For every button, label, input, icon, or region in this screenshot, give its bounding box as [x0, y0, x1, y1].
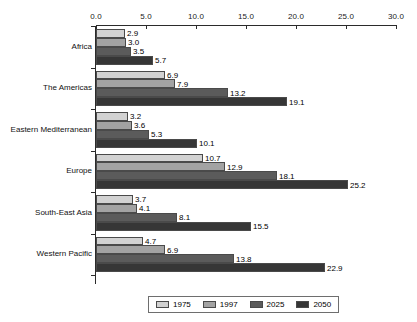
- bar-1975: [96, 154, 203, 163]
- legend-swatch-icon: [203, 301, 216, 308]
- chart-legend: 1975199720252050: [148, 296, 339, 313]
- bar-row: 3.0: [96, 38, 417, 47]
- bar-group: Eastern Mediterranean3.23.65.310.1: [0, 109, 417, 151]
- bar-row: 12.9: [96, 162, 417, 171]
- bar-1997: [96, 204, 137, 213]
- legend-swatch-icon: [250, 301, 263, 308]
- bar-value-label: 15.5: [251, 222, 269, 231]
- bar-2025: [96, 213, 177, 222]
- bar-2050: [96, 56, 153, 65]
- bar-value-label: 19.1: [287, 97, 305, 106]
- legend-item-1997: 1997: [203, 300, 238, 309]
- x-axis-tick-label: 5.0: [140, 12, 151, 21]
- bar-row: 3.7: [96, 195, 417, 204]
- x-axis-tick-label: 10.0: [188, 12, 204, 21]
- bar-stack: 6.97.913.219.1: [96, 71, 417, 107]
- legend-swatch-icon: [296, 301, 309, 308]
- category-label: Western Pacific: [37, 249, 92, 259]
- bar-value-label: 13.8: [234, 254, 252, 263]
- bar-value-label: 3.5: [131, 47, 144, 56]
- x-axis-tick-label: 20.0: [288, 12, 304, 21]
- bar-row: 18.1: [96, 171, 417, 180]
- bar-group: South-East Asia3.74.18.115.5: [0, 192, 417, 234]
- bar-stack: 4.76.913.822.9: [96, 237, 417, 273]
- bar-2025: [96, 130, 149, 139]
- bar-row: 7.9: [96, 79, 417, 88]
- bar-2025: [96, 171, 277, 180]
- bar-group: Western Pacific4.76.913.822.9: [0, 234, 417, 276]
- category-label: Africa: [72, 42, 92, 52]
- category-label: Europe: [66, 166, 92, 176]
- bar-value-label: 22.9: [325, 263, 343, 272]
- bar-value-label: 5.7: [153, 56, 166, 65]
- bar-group: Europe10.712.918.125.2: [0, 151, 417, 193]
- bar-chart: 0.05.010.015.020.025.030.0 Africa2.93.03…: [0, 0, 417, 322]
- bar-row: 6.9: [96, 71, 417, 80]
- bar-1975: [96, 112, 128, 121]
- bar-2025: [96, 254, 234, 263]
- legend-item-1975: 1975: [156, 300, 191, 309]
- category-label: Eastern Mediterranean: [11, 125, 92, 135]
- legend-item-2025: 2025: [250, 300, 285, 309]
- bar-stack: 3.74.18.115.5: [96, 195, 417, 231]
- bar-2050: [96, 139, 197, 148]
- legend-label: 1975: [173, 300, 191, 309]
- bar-1997: [96, 162, 225, 171]
- bar-row: 3.6: [96, 121, 417, 130]
- bar-1997: [96, 38, 126, 47]
- legend-label: 2025: [267, 300, 285, 309]
- bar-row: 5.7: [96, 56, 417, 65]
- bar-2050: [96, 263, 325, 272]
- bar-1997: [96, 121, 132, 130]
- legend-item-2050: 2050: [296, 300, 331, 309]
- bar-value-label: 2.9: [125, 29, 138, 38]
- bar-value-label: 12.9: [225, 162, 243, 171]
- bar-row: 10.1: [96, 139, 417, 148]
- bar-row: 3.2: [96, 112, 417, 121]
- bar-row: 19.1: [96, 97, 417, 106]
- bar-1975: [96, 29, 125, 38]
- plot-area: Africa2.93.03.55.7The Americas6.97.913.2…: [0, 26, 417, 275]
- bar-stack: 3.23.65.310.1: [96, 112, 417, 148]
- bar-row: 15.5: [96, 222, 417, 231]
- bar-1997: [96, 245, 165, 254]
- bar-value-label: 8.1: [177, 213, 190, 222]
- bar-2050: [96, 97, 287, 106]
- bar-1975: [96, 237, 143, 246]
- bar-value-label: 7.9: [175, 79, 188, 88]
- bar-2025: [96, 47, 131, 56]
- bar-row: 25.2: [96, 180, 417, 189]
- bar-row: 4.7: [96, 237, 417, 246]
- bar-stack: 2.93.03.55.7: [96, 29, 417, 65]
- bar-row: 4.1: [96, 204, 417, 213]
- bar-row: 13.8: [96, 254, 417, 263]
- bar-1975: [96, 195, 133, 204]
- legend-label: 1997: [220, 300, 238, 309]
- bar-row: 13.2: [96, 88, 417, 97]
- bar-2050: [96, 180, 348, 189]
- x-axis-tick-label: 30.0: [388, 12, 404, 21]
- category-label: South-East Asia: [35, 208, 92, 218]
- bar-value-label: 3.0: [126, 38, 139, 47]
- bar-value-label: 3.2: [128, 112, 141, 121]
- bar-value-label: 4.7: [143, 236, 156, 245]
- bar-value-label: 10.1: [197, 139, 215, 148]
- legend-label: 2050: [313, 300, 331, 309]
- x-axis-tick-label: 0.0: [90, 12, 101, 21]
- bar-row: 10.7: [96, 154, 417, 163]
- x-axis-tick-label: 25.0: [338, 12, 354, 21]
- bar-1975: [96, 71, 165, 80]
- bar-value-label: 13.2: [228, 88, 246, 97]
- legend-swatch-icon: [156, 301, 169, 308]
- bar-value-label: 3.6: [132, 121, 145, 130]
- y-axis-tick-mark: [91, 275, 96, 276]
- bar-value-label: 4.1: [137, 204, 150, 213]
- bar-2025: [96, 88, 228, 97]
- bar-1997: [96, 79, 175, 88]
- bar-value-label: 5.3: [149, 130, 162, 139]
- bar-group: The Americas6.97.913.219.1: [0, 68, 417, 110]
- bar-row: 5.3: [96, 130, 417, 139]
- bar-value-label: 25.2: [348, 180, 366, 189]
- bar-row: 3.5: [96, 47, 417, 56]
- bar-value-label: 6.9: [165, 245, 178, 254]
